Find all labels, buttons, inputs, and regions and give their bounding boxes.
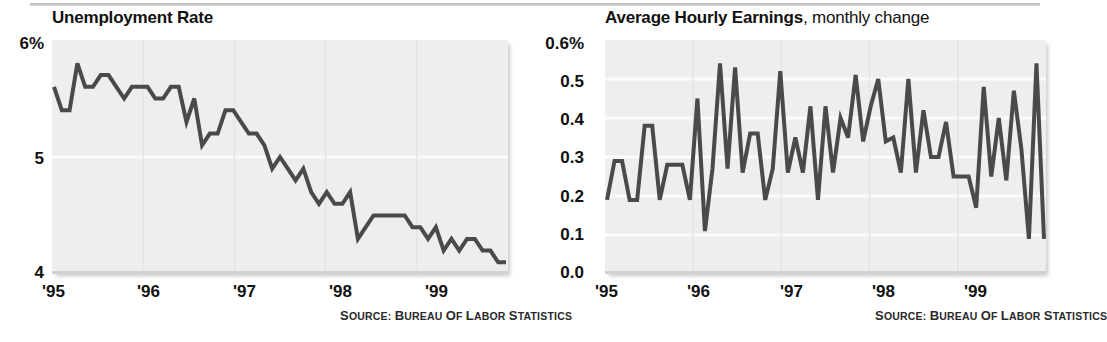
source-word: SOURCE:	[875, 310, 927, 322]
chart-panel-unemployment-rate: Unemployment Rate 6% 5 4 '95 '96 '97 '98…	[0, 0, 530, 342]
x-tick-label: '95	[42, 282, 65, 302]
y-tick-label: 6%	[19, 34, 44, 54]
y-tick-label: 5	[35, 149, 44, 169]
x-tick-label: '99	[964, 282, 987, 302]
y-tick-label: 0.1	[560, 225, 584, 245]
y-tick-label: 4	[35, 263, 44, 283]
y-tick-label: 0.2	[560, 187, 584, 207]
y-tick-label: 0.6%	[545, 34, 584, 54]
line-chart-earnings	[605, 40, 1046, 274]
x-tick-label: '96	[687, 282, 710, 302]
plot-area-unemployment	[52, 40, 508, 274]
source-word: STATISTICS	[1044, 310, 1107, 322]
y-tick-label: 0.5	[560, 72, 584, 92]
source-word: BUREAU	[395, 310, 443, 322]
x-tick-label: '97	[233, 282, 256, 302]
x-tick-label: '98	[872, 282, 895, 302]
line-chart-unemployment	[52, 40, 508, 274]
x-tick-label: '97	[780, 282, 803, 302]
source-note-right: SOURCE: BUREAU OF LABOR STATISTICS	[875, 308, 1107, 323]
source-word: OF	[981, 310, 998, 322]
chart-panel-average-hourly-earnings: Average Hourly Earnings, monthly change …	[530, 0, 1057, 342]
chart-title-main: Unemployment Rate	[52, 8, 213, 27]
chart-title-sub: , monthly change	[803, 8, 929, 27]
chart-title-unemployment: Unemployment Rate	[52, 8, 213, 28]
source-word: LABOR	[1001, 310, 1041, 322]
source-word: LABOR	[466, 310, 506, 322]
source-word: SOURCE:	[340, 310, 392, 322]
y-tick-label: 0.3	[560, 148, 584, 168]
x-tick-label: '96	[137, 282, 160, 302]
y-axis-labels-unemployment: 6% 5 4	[0, 0, 48, 342]
source-word: OF	[446, 310, 463, 322]
x-tick-label: '99	[425, 282, 448, 302]
x-tick-label: '95	[595, 282, 618, 302]
source-word: BUREAU	[930, 310, 978, 322]
chart-title-main: Average Hourly Earnings	[605, 8, 803, 27]
y-axis-labels-earnings: 0.6% 0.5 0.4 0.3 0.2 0.1 0.0	[542, 0, 590, 342]
y-tick-label: 0.0	[560, 263, 584, 283]
chart-title-earnings: Average Hourly Earnings, monthly change	[605, 8, 929, 28]
y-tick-label: 0.4	[560, 110, 584, 130]
x-tick-label: '98	[329, 282, 352, 302]
plot-area-earnings	[605, 40, 1046, 274]
